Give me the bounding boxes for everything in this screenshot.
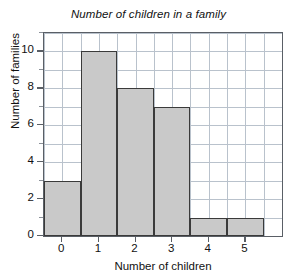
x-tick-label: 1 (83, 243, 113, 255)
x-axis-title: Number of children (43, 260, 283, 272)
bar (227, 218, 264, 236)
x-tick-label: 5 (229, 243, 259, 255)
y-tick-label: 6 (0, 118, 34, 130)
bar (117, 88, 154, 236)
y-tick-label: 10 (0, 44, 34, 56)
y-tick-major (37, 235, 43, 236)
y-tick-major (37, 50, 43, 51)
y-tick-minor (39, 143, 43, 144)
x-tick-label: 3 (156, 243, 186, 255)
histogram-figure: Number of children in a family Number of… (0, 0, 297, 279)
bar-series (44, 33, 282, 236)
bar (190, 218, 227, 236)
chart-title: Number of children in a family (0, 8, 297, 20)
x-tick-label: 2 (120, 243, 150, 255)
y-tick-major (37, 198, 43, 199)
y-tick-major (37, 87, 43, 88)
bar (44, 181, 81, 236)
y-tick-minor (39, 32, 43, 33)
gridline-vertical (282, 33, 283, 236)
y-tick-minor (39, 217, 43, 218)
y-tick-label: 4 (0, 155, 34, 167)
y-tick-minor (39, 69, 43, 70)
gridline-horizontal (44, 236, 282, 237)
y-tick-minor (39, 180, 43, 181)
y-tick-label: 2 (0, 192, 34, 204)
x-tick-label: 0 (46, 243, 76, 255)
bar (154, 107, 191, 236)
y-tick-label: 0 (0, 229, 34, 241)
y-tick-label: 8 (0, 81, 34, 93)
y-tick-major (37, 124, 43, 125)
x-tick-label: 4 (193, 243, 223, 255)
y-tick-minor (39, 106, 43, 107)
plot-area (43, 32, 283, 237)
bar (81, 51, 118, 236)
y-tick-major (37, 161, 43, 162)
